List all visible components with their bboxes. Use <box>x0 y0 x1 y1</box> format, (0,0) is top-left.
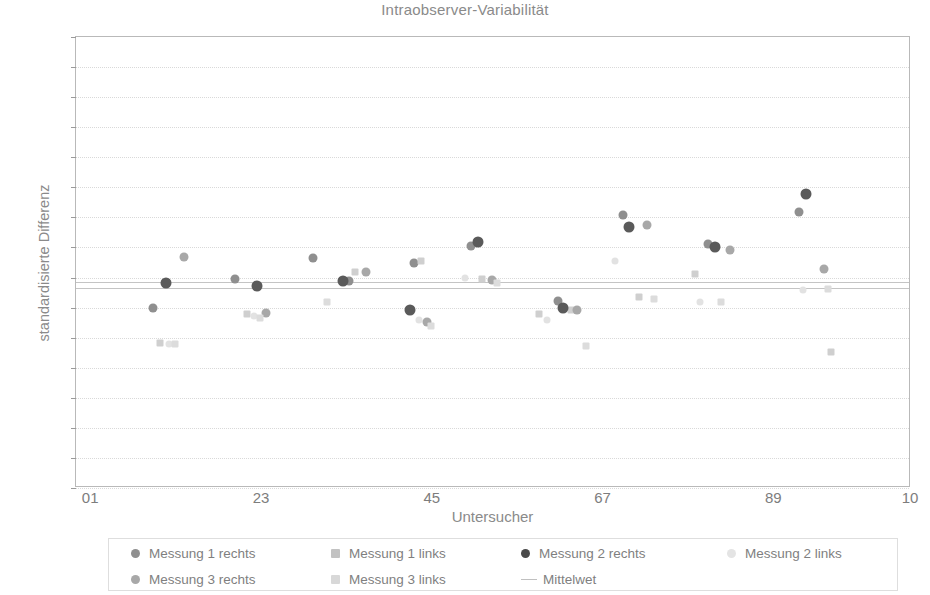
data-point <box>801 188 812 199</box>
legend-label: Messung 3 rechts <box>149 572 256 587</box>
chart-root: Intraobserver-Variabilität standardisier… <box>0 0 930 595</box>
data-point <box>819 265 828 274</box>
legend-item[interactable]: Messung 1 links <box>331 540 446 566</box>
y-tick-mark <box>71 97 76 98</box>
data-point <box>323 299 330 306</box>
data-point <box>149 303 158 312</box>
chart-title: Intraobserver-Variabilität <box>0 1 930 18</box>
data-point <box>418 257 425 264</box>
data-point <box>308 253 317 262</box>
data-point <box>428 323 435 330</box>
legend-label: Messung 2 links <box>745 546 842 561</box>
y-tick-mark <box>71 458 76 459</box>
data-point <box>179 253 188 262</box>
plot-area <box>75 36 910 487</box>
legend-marker-circle-icon <box>521 549 530 558</box>
legend-marker-square-icon <box>331 549 340 558</box>
data-point <box>573 306 582 315</box>
gridline <box>76 398 909 399</box>
data-point <box>726 245 735 254</box>
legend-marker-circle-icon <box>727 549 736 558</box>
gridline <box>76 458 909 459</box>
y-tick-mark <box>71 338 76 339</box>
data-point <box>623 222 634 233</box>
data-point <box>352 269 359 276</box>
data-point <box>696 299 703 306</box>
data-point <box>710 241 721 252</box>
y-tick-mark <box>71 187 76 188</box>
data-point <box>338 276 349 287</box>
data-point <box>494 279 501 286</box>
x-tick-label: 23 <box>231 489 291 506</box>
gridline <box>76 428 909 429</box>
y-tick-mark <box>71 398 76 399</box>
legend-label: Messung 1 links <box>349 546 446 561</box>
data-point <box>651 296 658 303</box>
x-tick-label: 89 <box>743 489 803 506</box>
data-point <box>473 237 484 248</box>
gridline <box>76 187 909 188</box>
gridline <box>76 157 909 158</box>
data-point <box>543 316 550 323</box>
gridline <box>76 338 909 339</box>
legend-label: Messung 3 links <box>349 572 446 587</box>
gridline <box>76 67 909 68</box>
gridline <box>76 368 909 369</box>
y-tick-mark <box>71 368 76 369</box>
legend-row: Messung 3 rechtsMessung 3 linksMittelwet <box>109 566 897 592</box>
data-point <box>405 305 416 316</box>
data-point <box>171 341 178 348</box>
data-point <box>800 287 807 294</box>
y-tick-mark <box>71 37 76 38</box>
data-point <box>251 280 262 291</box>
gridline <box>76 127 909 128</box>
legend-marker-circle-icon <box>131 575 140 584</box>
data-point <box>461 274 468 281</box>
legend-marker-circle-icon <box>131 549 140 558</box>
data-point <box>718 299 725 306</box>
legend-marker-square-icon <box>331 575 340 584</box>
x-tick-label: 45 <box>402 489 462 506</box>
x-tick-label: 67 <box>573 489 633 506</box>
data-point <box>794 207 803 216</box>
gridline <box>76 247 909 248</box>
data-point <box>160 277 171 288</box>
data-point <box>536 311 543 318</box>
y-tick-mark <box>71 67 76 68</box>
legend-label: Messung 2 rechts <box>539 546 646 561</box>
legend-item[interactable]: Messung 3 rechts <box>131 566 256 592</box>
legend-label: Messung 1 rechts <box>149 546 256 561</box>
data-point <box>583 343 590 350</box>
gridline <box>76 217 909 218</box>
data-point <box>824 285 831 292</box>
gridline <box>76 97 909 98</box>
data-point <box>231 275 240 284</box>
y-tick-mark <box>71 127 76 128</box>
data-point <box>828 349 835 356</box>
data-point <box>256 314 263 321</box>
data-point <box>558 303 569 314</box>
legend-item[interactable]: Messung 1 rechts <box>131 540 256 566</box>
chart-legend: Messung 1 rechtsMessung 1 linksMessung 2… <box>108 538 898 591</box>
legend-item[interactable]: Messung 2 rechts <box>521 540 646 566</box>
y-tick-mark <box>71 428 76 429</box>
legend-item[interactable]: Messung 3 links <box>331 566 446 592</box>
y-axis-title: standardisierte Differenz <box>36 123 52 403</box>
legend-item[interactable]: Messung 2 links <box>727 540 842 566</box>
y-tick-mark <box>71 217 76 218</box>
x-tick-label: 01 <box>60 489 120 506</box>
data-point <box>636 294 643 301</box>
data-point <box>642 220 651 229</box>
y-tick-mark <box>71 157 76 158</box>
data-point <box>618 211 627 220</box>
data-point <box>361 268 370 277</box>
x-tick-label: 10 <box>880 489 930 506</box>
gridline <box>76 308 909 309</box>
data-point <box>156 340 163 347</box>
y-tick-mark <box>71 247 76 248</box>
legend-label: Mittelwet <box>543 572 596 587</box>
mean-line <box>76 288 909 289</box>
legend-marker-line-icon <box>521 579 537 580</box>
legend-item[interactable]: Mittelwet <box>521 566 596 592</box>
y-tick-mark <box>71 278 76 279</box>
